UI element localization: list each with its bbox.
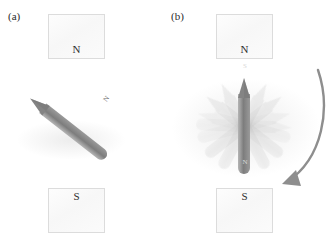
panel-b-needle-south-label: S	[239, 62, 251, 70]
panel-b-needle-north-label: N	[239, 158, 251, 166]
panel-a-north-pole-letter: N	[49, 43, 104, 55]
panel-b-north-pole-box: N	[216, 14, 273, 59]
panel-a-label: (a)	[8, 10, 20, 22]
panel-a-south-pole-box: S	[48, 188, 105, 233]
panel-b-south-pole-box: S	[216, 188, 273, 233]
panel-a-north-pole-box: N	[48, 14, 105, 59]
panel-b: (b) N S	[163, 0, 326, 237]
panel-b-north-pole-letter: N	[217, 43, 272, 55]
compass-needle-figure: (a) N S N (b) N S	[0, 0, 327, 237]
panel-a-south-pole-letter: S	[49, 190, 104, 202]
panel-a-needle-north-label: N	[102, 95, 111, 104]
panel-b-label: (b)	[171, 10, 184, 22]
panel-a: (a) N S N	[0, 0, 163, 237]
panel-b-south-pole-letter: S	[217, 190, 272, 202]
needle-tip-shading	[244, 78, 250, 98]
